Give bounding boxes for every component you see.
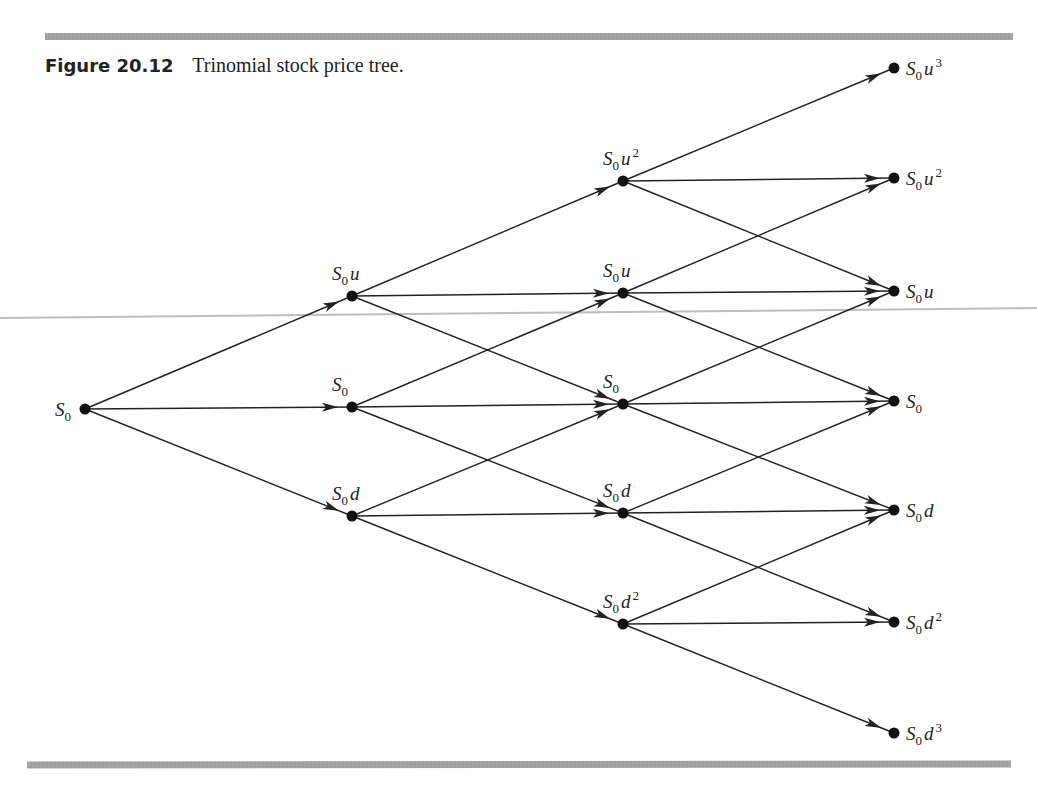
tree-edge — [352, 293, 623, 407]
tree-node-dot — [80, 404, 91, 415]
tree-edge — [352, 513, 623, 516]
tree-edge — [85, 407, 352, 409]
node-label-n2-1: S0u — [603, 260, 631, 285]
tree-node-dot — [347, 402, 358, 413]
tree-edge — [623, 291, 894, 404]
node-label-n3-1: S0u — [906, 281, 934, 306]
tree-edge — [623, 622, 894, 624]
tree-node-dot — [889, 173, 900, 184]
tree-edge — [623, 178, 894, 293]
tree-node-dot — [889, 505, 900, 516]
tree-edge — [623, 510, 894, 624]
node-label-n3-2: S0u2 — [906, 165, 942, 193]
tree-node-dot — [618, 399, 629, 410]
node-label-n1-1: S0u — [332, 263, 360, 288]
tree-edge — [623, 68, 894, 181]
tree-edge — [623, 510, 894, 513]
trinomial-tree-diagram: S0S0uS0S0dS0u2S0uS0S0dS0d2S0u3S0u2S0uS0S… — [0, 0, 1037, 793]
tree-edges — [85, 68, 894, 733]
node-label-n2-2: S0u2 — [603, 145, 639, 173]
tree-node-dot — [618, 176, 629, 187]
node-label-n3--1: S0d — [906, 500, 934, 525]
tree-edge — [623, 291, 894, 293]
tree-edge — [352, 404, 623, 407]
node-label-n1--1: S0d — [332, 483, 360, 508]
tree-edge — [623, 178, 894, 181]
node-label-n3--2: S0d2 — [906, 609, 942, 637]
tree-node-dot — [889, 286, 900, 297]
tree-node-dot — [618, 288, 629, 299]
tree-node-dot — [347, 511, 358, 522]
tree-node-dot — [618, 619, 629, 630]
tree-edge — [352, 293, 623, 296]
tree-edge — [352, 404, 623, 516]
bottom-rule — [27, 761, 1011, 769]
node-label-n0-0: S0 — [55, 399, 71, 424]
tree-edge — [623, 401, 894, 513]
node-label-n2-0: S0 — [603, 371, 619, 396]
node-label-n3-0: S0 — [906, 391, 922, 416]
tree-node-dot — [889, 728, 900, 739]
tree-edge — [623, 401, 894, 404]
node-label-n3--3: S0d3 — [906, 720, 942, 748]
node-label-n1-0: S0 — [332, 374, 348, 399]
node-label-n2--2: S0d2 — [603, 588, 639, 616]
tree-edge — [352, 516, 623, 624]
tree-edge — [352, 181, 623, 296]
tree-edge — [85, 296, 352, 409]
tree-nodes — [80, 63, 900, 739]
node-label-n3-3: S0u3 — [906, 55, 942, 83]
tree-edge — [623, 624, 894, 733]
tree-node-dot — [347, 291, 358, 302]
tree-node-dot — [889, 396, 900, 407]
tree-node-dot — [618, 508, 629, 519]
tree-node-dot — [889, 63, 900, 74]
tree-edge — [85, 409, 352, 516]
node-label-n2--1: S0d — [603, 480, 631, 505]
tree-node-dot — [889, 617, 900, 628]
